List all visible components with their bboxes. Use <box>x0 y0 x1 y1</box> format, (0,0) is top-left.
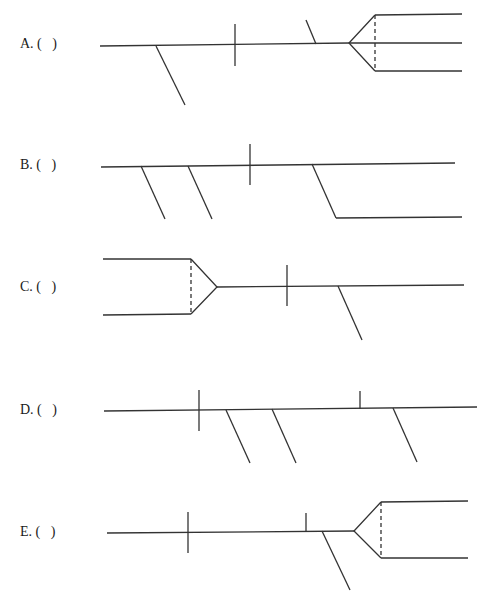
diagram-e <box>0 0 487 598</box>
option-e: E. ( ) <box>0 0 487 598</box>
